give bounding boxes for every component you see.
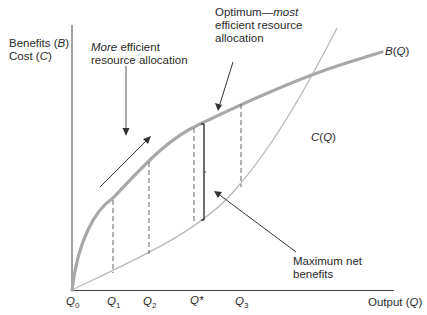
tick-base: Q xyxy=(235,295,244,307)
y-axis-label: Benefits (B) Cost (C) xyxy=(9,37,69,63)
bq-base: B xyxy=(385,45,393,57)
net-benefit-bracket xyxy=(201,124,206,220)
more-line2: resource allocation xyxy=(91,54,188,67)
x-label-post: ) xyxy=(419,296,423,308)
cost-curve-label: C(Q) xyxy=(311,131,336,144)
x-label-var: Q xyxy=(410,296,419,308)
arrow-diagonal-icon xyxy=(100,136,151,187)
max-net-line2: benefits xyxy=(293,268,362,281)
more-rest: efficient xyxy=(117,41,160,53)
x-tick-qstar: Q* xyxy=(190,294,203,309)
x-tick-q1: Q1 xyxy=(107,295,120,310)
benefit-curve-label: B(Q) xyxy=(385,45,409,58)
y-label-cost: Cost ( xyxy=(9,50,40,62)
x-label-pre: Output ( xyxy=(368,296,410,308)
tick-base: Q xyxy=(66,295,75,307)
arrow-down-icon xyxy=(123,66,130,136)
x-tick-q2: Q2 xyxy=(143,295,156,310)
y-label-paren2: ) xyxy=(48,50,52,62)
x-axis-label: Output (Q) xyxy=(368,296,422,309)
y-label-c-var: C xyxy=(40,50,48,62)
more-italic: More xyxy=(91,41,117,53)
y-label-benefits: Benefits ( xyxy=(9,37,58,49)
optimum-pre: Optimum— xyxy=(215,6,273,18)
tick-base: Q* xyxy=(190,294,203,306)
tick-sub: 2 xyxy=(152,301,156,310)
arrow-optimum-icon xyxy=(215,62,233,111)
tick-base: Q xyxy=(107,295,116,307)
tick-sub: 1 xyxy=(116,301,120,310)
x-tick-q3: Q3 xyxy=(235,295,248,310)
x-tick-q0: Q0 xyxy=(66,295,79,310)
tick-sub: 3 xyxy=(244,301,248,310)
optimum-line2: efficient resource xyxy=(215,19,302,32)
arrow-max-net-icon xyxy=(214,191,296,252)
max-net-line1: Maximum net xyxy=(293,255,362,268)
optimum-italic: most xyxy=(273,6,298,18)
more-efficient-annotation: More efficient resource allocation xyxy=(91,41,188,67)
optimum-line3: allocation xyxy=(215,32,302,45)
tick-sub: 0 xyxy=(75,301,79,310)
cq-arg: Q xyxy=(323,131,332,143)
max-net-annotation: Maximum net benefits xyxy=(293,255,362,281)
tick-base: Q xyxy=(143,295,152,307)
optimum-annotation: Optimum—most efficient resource allocati… xyxy=(215,6,302,45)
y-label-paren: ) xyxy=(65,37,69,49)
